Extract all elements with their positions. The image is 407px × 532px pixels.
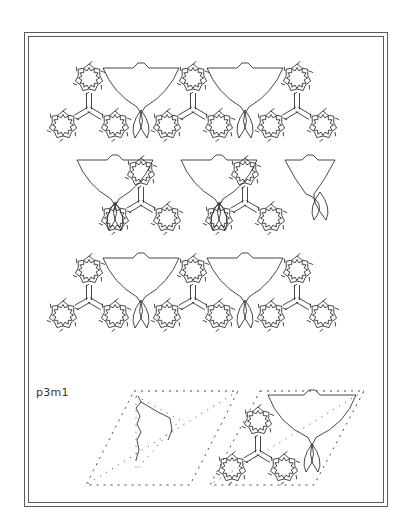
- rosette-spur: [203, 130, 207, 132]
- lattice-top-edge: [103, 253, 179, 258]
- rosette-spur: [219, 108, 222, 111]
- rosette-star-icon: [157, 115, 178, 136]
- rosette-star-icon: [313, 305, 334, 326]
- rosette-spur: [219, 457, 220, 461]
- rosette-spur: [296, 475, 297, 479]
- rosette-spur: [335, 308, 339, 310]
- trefoil-arm: [283, 298, 296, 306]
- lattice-left-side: [285, 160, 320, 220]
- rosette-spur: [205, 85, 206, 89]
- rosette-spur: [216, 232, 219, 235]
- rosette-spur: [179, 211, 183, 213]
- rosette-spur: [283, 322, 284, 326]
- rosette-star-icon: [313, 115, 334, 136]
- rosette-spur: [258, 304, 259, 308]
- rosette-spur: [164, 329, 167, 332]
- rosette-spur: [257, 179, 258, 183]
- rosette-spur: [258, 114, 259, 118]
- trefoil-arm: [285, 302, 298, 310]
- rosette-spur: [283, 132, 284, 136]
- rosette-spur: [270, 414, 274, 416]
- rosette-spur: [231, 308, 235, 310]
- rosette-star-icon: [53, 115, 74, 136]
- rosette-spur: [323, 298, 326, 301]
- rosette-spur: [268, 232, 271, 235]
- rosette-star-icon: [53, 305, 74, 326]
- lattice-left-side: [181, 160, 221, 230]
- rosette-spur: [245, 410, 246, 414]
- rosette-star-icon: [261, 305, 282, 326]
- rosette-spur: [296, 461, 300, 463]
- rosette-spur: [89, 61, 92, 64]
- lattice-top-edge: [103, 63, 179, 68]
- rosette-spur: [73, 83, 77, 85]
- rosette-star-icon: [235, 162, 256, 183]
- trefoil-arm: [77, 302, 90, 310]
- rosette-spur: [281, 83, 285, 85]
- rosette-star-icon: [183, 260, 204, 281]
- rosette-spur: [60, 329, 63, 332]
- rosette-star-icon: [248, 411, 269, 432]
- rosette-spur: [281, 482, 284, 485]
- rosette-spur: [231, 322, 232, 326]
- lattice-left-side: [268, 395, 314, 472]
- rosette-spur: [297, 61, 300, 64]
- rosette-star-icon: [287, 68, 308, 89]
- rosette-spur: [164, 232, 167, 235]
- fundamental-region: [136, 396, 180, 470]
- rosette-spur: [284, 259, 285, 263]
- rosette-spur: [309, 71, 313, 73]
- trefoil-arm: [88, 302, 101, 310]
- rosette-spur: [268, 329, 271, 332]
- rosette-spur: [255, 223, 259, 225]
- rosette-spur: [60, 139, 63, 142]
- rosette-spur: [179, 322, 180, 326]
- lattice-top-edge: [285, 155, 335, 160]
- rosette-spur: [232, 161, 233, 165]
- rosette-spur: [245, 155, 248, 158]
- rosette-spur: [102, 207, 103, 211]
- rosette-spur: [179, 225, 180, 229]
- rosette-spur: [310, 304, 311, 308]
- fundamental-region-cell: [86, 391, 238, 485]
- rosette-spur: [232, 451, 235, 454]
- rosette-star-icon: [261, 115, 282, 136]
- lattice-right-side: [310, 395, 356, 472]
- rosette-spur: [258, 404, 261, 407]
- rosette-star-icon: [274, 458, 295, 479]
- rosette-spur: [99, 223, 103, 225]
- rosette-spur: [154, 304, 155, 308]
- rosette-spur: [141, 155, 144, 158]
- rosette-spur: [231, 118, 235, 120]
- lattice-left-side: [77, 160, 117, 230]
- full-motif-cell: [210, 390, 364, 485]
- rosette-spur: [284, 451, 287, 454]
- rosette-spur: [242, 426, 246, 428]
- rosette-spur: [50, 304, 51, 308]
- rosette-spur: [75, 132, 76, 136]
- rosette-spur: [127, 118, 131, 120]
- rosette-spur: [205, 263, 209, 265]
- rosette-spur: [320, 139, 323, 142]
- rosette-spur: [307, 320, 311, 322]
- rosette-spur: [127, 132, 128, 136]
- rosette-spur: [268, 473, 272, 475]
- rosette-spur: [177, 275, 181, 277]
- rosette-spur: [101, 277, 102, 281]
- rosette-star-icon: [261, 208, 282, 229]
- rosette-spur: [284, 67, 285, 71]
- motif-arc: [141, 402, 172, 440]
- rosette-spur: [309, 277, 310, 281]
- rosette-spur: [63, 298, 66, 301]
- unit-cell-diagonal: [210, 391, 364, 485]
- rosette-spur: [206, 304, 207, 308]
- unit-cell-diagonal: [86, 391, 238, 485]
- rosette-spur: [102, 304, 103, 308]
- rosette-spur: [231, 225, 232, 229]
- rosette-spur: [309, 85, 310, 89]
- rosette-spur: [203, 320, 207, 322]
- rosette-spur: [151, 223, 155, 225]
- rosette-spur: [307, 130, 311, 132]
- rosette-spur: [309, 263, 313, 265]
- lattice-top-edge: [207, 253, 283, 258]
